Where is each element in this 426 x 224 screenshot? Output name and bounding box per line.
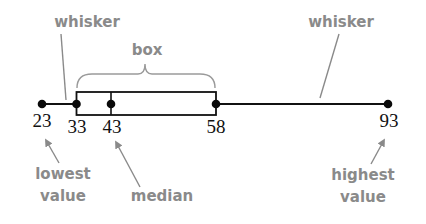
min-value: 23: [33, 110, 52, 131]
box-brace: [77, 64, 215, 88]
median-value: 43: [103, 116, 122, 137]
min-point: [38, 100, 47, 109]
highest-value-arrow-icon: [371, 142, 383, 164]
q3-value: 58: [207, 116, 226, 137]
highest-value-label-line2: value: [340, 188, 386, 206]
max-value: 93: [380, 110, 399, 131]
q1-value: 33: [68, 116, 87, 137]
box-and-whisker-diagram: whisker whisker box 23 33 43 58 93 lowes…: [0, 0, 426, 224]
q1-point: [72, 100, 81, 109]
q3-point: [212, 100, 221, 109]
whisker-right-label: whisker: [308, 13, 374, 31]
highest-value-label-line1: highest: [331, 166, 395, 184]
box-label: box: [132, 41, 163, 59]
lowest-value-label-line2: value: [40, 187, 86, 205]
lowest-value-arrow-icon: [47, 142, 59, 163]
median-label: median: [131, 187, 193, 205]
whisker-left-pointer: [61, 34, 66, 100]
median-point: [107, 100, 116, 109]
interquartile-box: [77, 92, 217, 115]
median-arrow-icon: [117, 144, 140, 187]
whisker-right-pointer: [320, 34, 339, 98]
whisker-left-label: whisker: [54, 13, 120, 31]
lowest-value-label-line1: lowest: [35, 165, 91, 183]
max-point: [384, 100, 393, 109]
